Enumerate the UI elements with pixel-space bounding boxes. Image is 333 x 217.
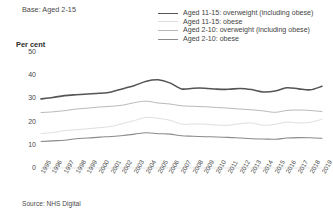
- source-note: Source: NHS Digital: [22, 200, 81, 207]
- y-tick-label: 10: [20, 141, 36, 148]
- y-tick-label: 0: [20, 164, 36, 171]
- series-line: [41, 133, 322, 142]
- series-line: [41, 101, 322, 112]
- y-tick-label: 40: [20, 71, 36, 78]
- series-line: [41, 117, 322, 133]
- y-tick-label: 50: [20, 48, 36, 55]
- y-tick-label: 20: [20, 118, 36, 125]
- y-tick-label: 30: [20, 94, 36, 101]
- series-line: [41, 80, 322, 99]
